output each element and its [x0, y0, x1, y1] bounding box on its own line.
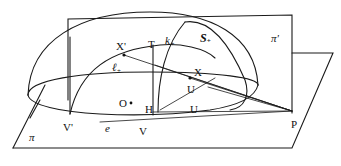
hemisphere-s-plus	[28, 12, 258, 115]
label-e: e	[105, 122, 110, 134]
label-pi-prime: π'	[271, 32, 280, 44]
label-x-prime: X'	[116, 40, 126, 52]
label-v: V	[139, 125, 147, 137]
label-ell-plus: ℓ+	[112, 61, 122, 75]
label-pi: π	[29, 131, 35, 143]
point-x	[188, 76, 191, 79]
label-v-prime: V'	[63, 121, 73, 133]
point-o	[130, 102, 133, 105]
horizontal-plane-pi	[13, 53, 333, 148]
label-p: P	[291, 118, 297, 130]
label-x: X	[194, 66, 202, 78]
label-t: T	[148, 38, 155, 50]
hemisphere-diagram: X' T k+ S+ π' ℓ+ X O U U H V' e V P π	[0, 0, 341, 166]
label-u-lower: U	[190, 103, 198, 115]
label-o: O	[119, 97, 127, 109]
label-k-plus: k+	[165, 34, 175, 48]
label-s-plus: S+	[200, 31, 211, 45]
label-u-upper: U	[187, 83, 195, 95]
label-h: H	[145, 103, 153, 115]
point-x-prime	[122, 53, 125, 56]
